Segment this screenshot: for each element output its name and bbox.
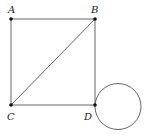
point-c (9, 103, 13, 107)
label-c: C (7, 111, 15, 122)
square-edges (11, 19, 95, 105)
point-d (93, 103, 97, 107)
point-b (93, 17, 97, 21)
label-b: B (90, 4, 98, 15)
point-a (9, 17, 13, 21)
label-a: A (7, 4, 15, 15)
label-d: D (83, 111, 92, 122)
circle-at-d (95, 84, 141, 130)
diagonal-cb (11, 19, 95, 105)
geometry-diagram: A B C D (0, 0, 151, 136)
vertex-labels: A B C D (7, 4, 98, 122)
